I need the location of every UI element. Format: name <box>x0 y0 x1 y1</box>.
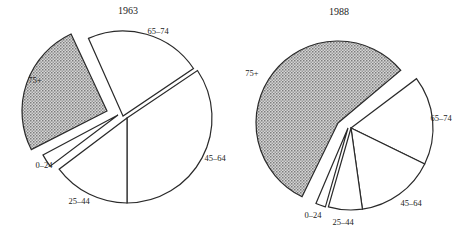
slice-label: 0–24 <box>36 160 54 170</box>
chart-title: 1963 <box>118 5 138 16</box>
slice-label: 45–64 <box>400 198 422 208</box>
chart-canvas: 196365–7445–6425–440–2475+ 198865–7445–6… <box>0 0 464 234</box>
slice-label: 75+ <box>245 68 259 78</box>
slice-label: 25–44 <box>332 217 354 227</box>
pie-1988: 198865–7445–6425–440–2475+ <box>245 6 452 227</box>
slice-label: 0–24 <box>305 210 323 220</box>
slice-label: 25–44 <box>68 196 90 206</box>
slice-label: 65–74 <box>147 26 169 36</box>
pie-chart-comparison: 196365–7445–6425–440–2475+ 198865–7445–6… <box>0 0 464 234</box>
slice-label: 45–64 <box>204 153 226 163</box>
slice-label: 65–74 <box>430 113 452 123</box>
pie-1963: 196365–7445–6425–440–2475+ <box>22 5 226 206</box>
chart-title: 1988 <box>329 6 349 17</box>
slice-label: 75+ <box>28 75 42 85</box>
